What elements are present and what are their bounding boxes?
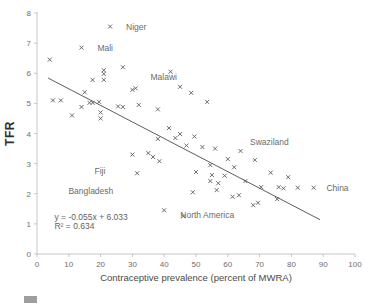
x-tick-label: 0 [35,260,40,269]
y-tick-label: 1 [27,220,32,229]
x-tick-label: 10 [64,260,73,269]
y-tick-label: 5 [27,99,32,108]
data-point [48,58,52,62]
point-label-bangladesh: Bangladesh [68,186,113,196]
data-point [167,126,171,130]
x-axis-title: Contraceptive prevalence (percent of MWR… [100,272,292,283]
data-point [102,72,106,76]
data-point [102,78,106,82]
y-tick-label: 3 [27,160,32,169]
data-point [286,175,290,179]
data-point [80,46,84,50]
point-label-niger: Niger [126,22,146,32]
y-axis-title: TFR [3,121,17,146]
data-point [97,100,101,104]
data-point [156,137,160,141]
data-point [208,163,212,167]
point-label-mali: Mali [97,43,113,53]
chart-canvas: 0123456780102030405060708090100Contracep… [0,0,370,307]
data-point [237,193,241,197]
data-point [137,103,141,107]
x-tick-label: 50 [192,260,201,269]
data-point [239,149,243,153]
data-point [178,85,182,89]
data-point [162,208,166,212]
data-point [269,171,273,175]
data-point [216,181,220,185]
point-label-swaziland: Swaziland [250,137,289,147]
data-point [256,201,260,205]
data-point [259,185,263,189]
x-tick-label: 70 [255,260,264,269]
y-tick-label: 0 [27,250,32,259]
x-tick-label: 90 [319,260,328,269]
data-point [223,174,227,178]
data-point [200,145,204,149]
data-point [208,179,212,183]
y-tick-label: 7 [27,39,32,48]
data-point [83,90,87,94]
data-point [70,113,74,117]
x-tick-label: 40 [160,260,169,269]
figure-caption [24,295,354,307]
trendline-r2: R² = 0.634 [54,221,94,231]
data-point [146,151,150,155]
data-point [156,107,160,111]
point-label-malawi: Malawi [150,72,177,82]
x-tick-label: 60 [223,260,232,269]
data-point [130,153,134,157]
y-tick-label: 6 [27,69,32,78]
data-point [157,159,161,163]
data-point [192,135,196,139]
y-tick-label: 8 [27,9,32,18]
data-point [151,155,155,159]
x-tick-label: 20 [96,260,105,269]
data-point [59,98,63,102]
data-point [184,144,188,148]
data-point [121,105,125,109]
scatter-chart: 0123456780102030405060708090100Contracep… [0,0,370,307]
data-point [312,186,316,190]
data-point [205,100,209,104]
data-point [231,195,235,199]
data-point [281,186,285,190]
data-point [251,203,255,207]
data-point [194,170,198,174]
data-point [51,98,55,102]
x-tick-label: 80 [287,260,296,269]
data-point [213,147,217,151]
data-point [99,116,103,120]
point-label-fiji: Fiji [95,166,106,176]
data-point [91,78,95,82]
data-point [173,136,177,140]
data-point [116,104,120,108]
x-tick-label: 100 [348,260,362,269]
data-point [121,65,125,69]
data-point [215,188,219,192]
y-tick-label: 4 [27,130,32,139]
data-point [102,68,106,72]
point-label-north-america: North America [180,210,234,220]
data-point [232,165,236,169]
data-point [226,157,230,161]
data-point [210,173,214,177]
point-label-china: China [326,183,348,193]
data-point [189,91,193,95]
data-point [296,186,300,190]
data-point [135,171,139,175]
data-point [99,110,103,114]
data-point [178,132,182,136]
data-point [277,185,281,189]
x-tick-label: 30 [128,260,137,269]
data-point [108,25,112,29]
data-point [80,105,84,109]
trendline [48,78,320,220]
data-point [253,158,257,162]
data-point [191,190,195,194]
y-tick-label: 2 [27,190,32,199]
